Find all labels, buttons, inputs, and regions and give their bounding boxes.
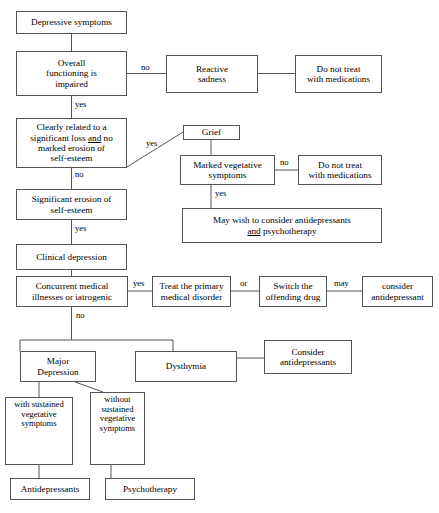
node-dysthymia[interactable]: Dysthymia [135, 351, 237, 382]
node-treat-primary-medical-disorder[interactable]: Treat the primary medical disorder [152, 276, 231, 307]
node-may-wish-text: May wish to consider antidepressantsand … [213, 215, 351, 236]
edge-label-vegetative-no: no [279, 158, 290, 167]
edge-concurrent-split [20, 307, 72, 351]
node-antidepressants[interactable]: Antidepressants [10, 478, 90, 500]
node-clearly-related-significant-loss[interactable]: Clearly related to asignificant loss and… [16, 118, 127, 168]
node-clinical-depression[interactable]: Clinical depression [16, 244, 127, 270]
edge-label-or: or [239, 279, 248, 288]
node-major-depression[interactable]: Major Depression [20, 351, 96, 382]
node-overall-functioning[interactable]: Overall functioning is impaired [16, 51, 127, 96]
flowchart-canvas: Depressive symptoms Overall functioning … [0, 0, 439, 513]
node-concurrent-medical-illnesses[interactable]: Concurrent medical illnesses or iatrogen… [16, 276, 128, 307]
edge-label-may: may [333, 279, 350, 288]
node-do-not-treat-medications-2[interactable]: Do not treat with medications [298, 155, 382, 185]
edge-label-functioning-yes: yes [74, 100, 87, 109]
node-consider-antidepressant[interactable]: consider antidepressant [362, 276, 433, 307]
edge-label-vegetative-yes: yes [214, 189, 227, 198]
node-marked-vegetative-symptoms[interactable]: Marked vegetative symptoms [180, 155, 275, 185]
node-consider-antidepressants[interactable]: Consider antidepressants [264, 340, 352, 374]
edge-label-erosion-yes: yes [74, 224, 87, 233]
node-without-sustained-vegetative-symptoms[interactable]: without sustained vegetative symptoms [90, 392, 145, 465]
node-do-not-treat-medications-1[interactable]: Do not treat with medications [295, 55, 382, 93]
edge-label-clearly-related-yes: yes [145, 139, 158, 148]
edge-label-concurrent-no: no [75, 311, 86, 320]
node-reactive-sadness[interactable]: Reactive sadness [166, 55, 258, 93]
node-grief[interactable]: Grief [183, 125, 240, 140]
edge-label-concurrent-yes: yes [132, 279, 145, 288]
edge-label-clearly-related-no: no [74, 170, 85, 179]
node-may-wish-consider-antidepressants[interactable]: May wish to consider antidepressantsand … [182, 208, 382, 243]
node-with-sustained-vegetative-symptoms[interactable]: with sustained vegetative symptoms [5, 397, 73, 465]
node-clearly-related-text: Clearly related to asignificant loss and… [30, 122, 112, 163]
node-psychotherapy[interactable]: Psychotherapy [105, 478, 195, 500]
node-depressive-symptoms[interactable]: Depressive symptoms [16, 11, 127, 34]
node-switch-offending-drug[interactable]: Switch the offending drug [259, 276, 327, 307]
node-significant-erosion-self-esteem[interactable]: Significant erosion of self-esteem [16, 189, 127, 220]
edge-concurrent-to-dysthymia [72, 340, 174, 351]
edge-label-functioning-no: no [140, 63, 151, 72]
edge-major-to-without [75, 382, 103, 392]
